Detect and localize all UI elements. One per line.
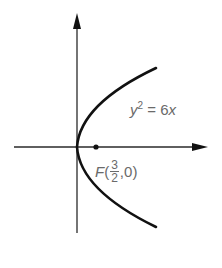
eq-var-x: x <box>169 101 177 118</box>
parabola-diagram: y2 = 6x F ( 3 2 , 0 ) <box>0 0 222 268</box>
fraction-denominator: 2 <box>111 172 118 184</box>
focus-close-paren: ) <box>132 164 137 179</box>
x-axis <box>14 143 208 151</box>
graph-svg <box>0 0 222 268</box>
y-axis-arrow-icon <box>73 13 81 29</box>
equation-label: y2 = 6x <box>130 101 176 117</box>
focus-point <box>93 144 98 149</box>
y-axis <box>73 13 81 233</box>
focus-y-value: 0 <box>124 164 132 179</box>
focus-name: F <box>95 164 104 179</box>
focus-open-paren: ( <box>104 164 109 179</box>
eq-rest: = 6 <box>143 101 168 118</box>
x-axis-arrow-icon <box>192 143 208 151</box>
eq-var-y: y <box>130 101 138 118</box>
focus-x-fraction: 3 2 <box>110 159 119 184</box>
focus-label: F ( 3 2 , 0 ) <box>95 159 137 184</box>
